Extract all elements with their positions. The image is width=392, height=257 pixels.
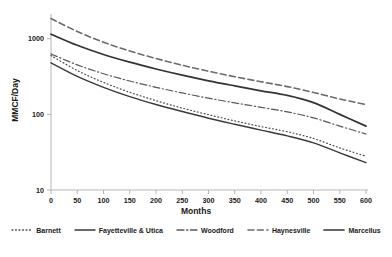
- x-tick-label: 100: [98, 196, 110, 205]
- chart-legend: BarnettFayetteville & UticaWoodfordHayne…: [0, 226, 392, 234]
- x-tick-label: 350: [229, 196, 241, 205]
- legend-swatch-marcellus: [323, 226, 345, 234]
- legend-label-haynesville: Haynesville: [272, 227, 311, 234]
- legend-swatch-haynesville: [247, 226, 269, 234]
- x-tick-label: 300: [203, 196, 215, 205]
- x-tick-label: 200: [150, 196, 162, 205]
- plot-area: 1010010000501001502002503003504004505005…: [0, 0, 392, 257]
- x-tick-label: 150: [124, 196, 136, 205]
- legend-label-barnett: Barnett: [36, 227, 61, 234]
- x-tick-label: 450: [281, 196, 293, 205]
- y-tick-label: 1000: [28, 34, 44, 43]
- x-axis-title: Months: [0, 206, 392, 216]
- series-line-barnett: [51, 56, 366, 157]
- legend-swatch-barnett: [11, 226, 33, 234]
- x-tick-label: 500: [308, 196, 320, 205]
- legend-item-haynesville[interactable]: Haynesville: [247, 226, 311, 234]
- legend-label-woodford: Woodford: [201, 227, 234, 234]
- decline-curve-chart: 1010010000501001502002503003504004505005…: [0, 0, 392, 257]
- legend-item-woodford[interactable]: Woodford: [176, 226, 234, 234]
- series-line-haynesville: [51, 19, 366, 105]
- y-axis-title: MMCF/Day: [10, 65, 20, 135]
- series-line-fayetteville-utica: [51, 63, 366, 163]
- legend-item-fayetteville-utica[interactable]: Fayetteville & Utica: [74, 226, 163, 234]
- legend-swatch-fayetteville-utica: [74, 226, 96, 234]
- y-tick-label: 10: [36, 186, 44, 195]
- legend-item-marcellus[interactable]: Marcellus: [323, 226, 380, 234]
- legend-item-barnett[interactable]: Barnett: [11, 226, 61, 234]
- legend-swatch-woodford: [176, 226, 198, 234]
- legend-label-marcellus: Marcellus: [348, 227, 380, 234]
- x-tick-label: 50: [73, 196, 81, 205]
- y-tick-label: 100: [32, 110, 44, 119]
- x-tick-label: 600: [360, 196, 372, 205]
- x-tick-label: 250: [176, 196, 188, 205]
- x-tick-label: 0: [49, 196, 53, 205]
- legend-label-fayetteville-utica: Fayetteville & Utica: [99, 227, 163, 234]
- x-tick-label: 550: [334, 196, 346, 205]
- x-tick-label: 400: [255, 196, 267, 205]
